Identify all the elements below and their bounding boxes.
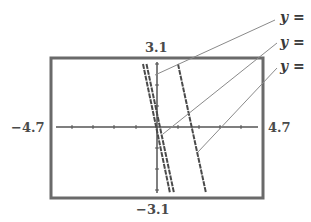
ymax-label: 3.1	[145, 41, 168, 54]
ymin-label: −3.1	[136, 203, 170, 216]
equation-label-1-text: y =	[280, 9, 305, 25]
xmax-label: 4.7	[268, 121, 291, 134]
equation-label-3: y =	[280, 59, 305, 73]
equation-label-2: y =	[280, 35, 305, 49]
leader-line-1	[155, 20, 275, 75]
xmin-label: −4.7	[11, 121, 45, 134]
plot-line-3	[178, 64, 206, 193]
leader-line-3	[198, 68, 277, 152]
equation-label-1: y =	[280, 10, 305, 24]
equation-label-2-text: y =	[280, 34, 305, 50]
equation-label-3-text: y =	[280, 58, 305, 74]
graph-canvas	[0, 0, 311, 222]
leader-lines	[155, 20, 277, 152]
plot-lines	[143, 64, 206, 193]
